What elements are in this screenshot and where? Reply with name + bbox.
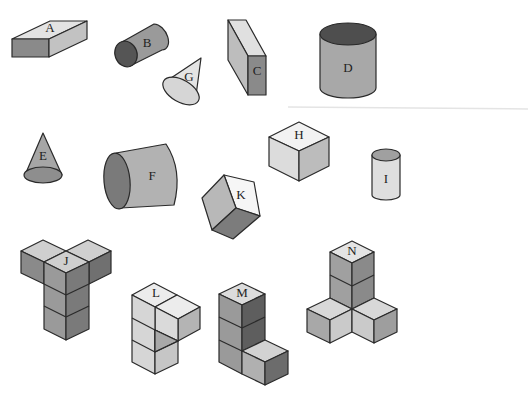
shape-a: A <box>12 20 87 57</box>
label-e: E <box>39 148 47 163</box>
shape-c: C <box>228 20 266 95</box>
label-g: G <box>184 69 193 84</box>
shape-i: I <box>372 149 400 200</box>
diagram-canvas: A B G C D E F H <box>0 0 528 394</box>
shape-e: E <box>24 133 62 183</box>
label-j: J <box>63 253 68 268</box>
label-a: A <box>45 20 55 35</box>
label-m: M <box>236 285 248 300</box>
label-n: N <box>347 243 357 258</box>
label-h: H <box>294 127 303 142</box>
shapes-diagram: A B G C D E F H <box>0 0 528 394</box>
shape-g: G <box>158 58 204 111</box>
separator-line <box>288 107 528 109</box>
label-c: C <box>253 63 262 78</box>
shape-h: H <box>269 122 329 181</box>
label-b: B <box>143 35 152 50</box>
shape-n: N <box>307 241 397 343</box>
label-l: L <box>152 285 160 300</box>
shape-f: F <box>102 144 178 210</box>
shape-m: M <box>219 283 288 385</box>
label-f: F <box>148 168 155 183</box>
label-d: D <box>343 60 352 75</box>
shape-k: K <box>202 175 260 239</box>
shape-b: B <box>111 24 168 70</box>
label-i: I <box>384 171 388 186</box>
shape-d: D <box>320 23 376 98</box>
shape-l: L <box>132 283 200 374</box>
label-k: K <box>236 187 246 202</box>
shape-j: J <box>21 240 111 340</box>
